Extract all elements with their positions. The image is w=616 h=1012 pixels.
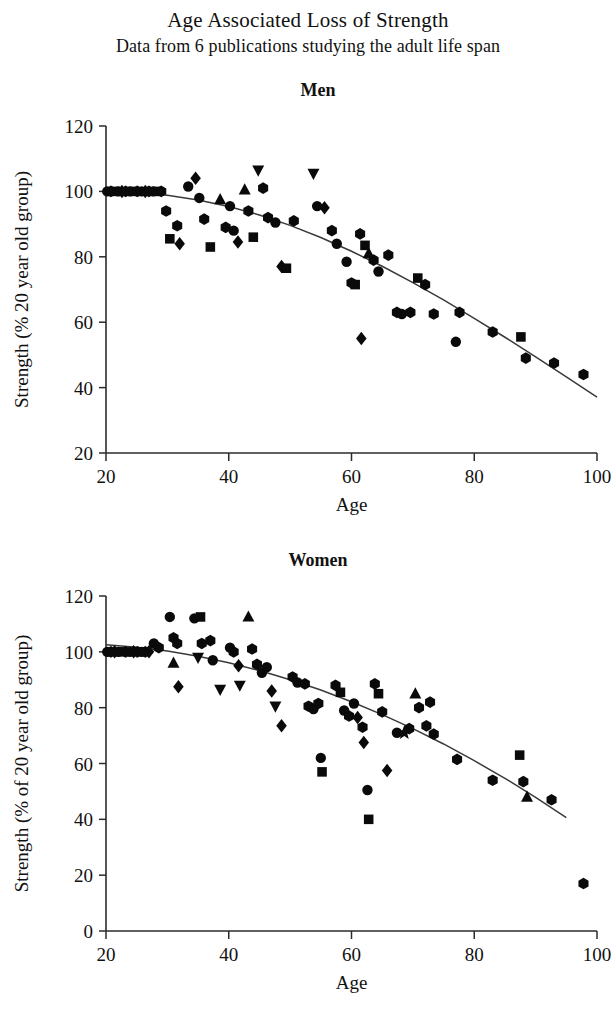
data-point-hexagon — [197, 638, 207, 650]
data-point-hexagon — [578, 369, 588, 381]
data-point-triangle-up — [242, 610, 254, 621]
data-point-square — [364, 815, 374, 825]
x-tick-label: 40 — [219, 466, 238, 487]
data-point-triangle-up — [168, 657, 180, 668]
data-point-circle — [165, 612, 175, 622]
data-point-hexagon — [355, 228, 365, 240]
data-point-hexagon — [518, 776, 528, 788]
data-point-diamond — [359, 736, 370, 750]
data-point-hexagon — [454, 307, 464, 319]
data-point-hexagon — [172, 220, 182, 232]
data-point-circle — [341, 257, 351, 267]
data-point-triangle-up — [214, 193, 226, 204]
data-point-hexagon — [452, 753, 462, 765]
data-point-square — [350, 280, 360, 290]
data-point-hexagon — [421, 720, 431, 732]
data-point-triangle-down — [269, 702, 281, 713]
x-tick-label: 60 — [342, 944, 361, 965]
data-point-square — [249, 232, 259, 242]
plot-women: 02040608010012020406080100AgeStrength (%… — [0, 572, 616, 1004]
x-tick-label: 80 — [465, 466, 484, 487]
data-point-square — [196, 612, 206, 622]
data-point-hexagon — [205, 635, 215, 647]
y-tick-label: 60 — [74, 312, 93, 333]
data-point-triangle-down — [214, 685, 226, 696]
y-tick-label: 20 — [74, 443, 93, 464]
x-tick-label: 80 — [465, 944, 484, 965]
x-tick-label: 60 — [342, 466, 361, 487]
data-point-hexagon — [383, 249, 393, 261]
data-point-diamond — [382, 764, 393, 778]
y-tick-label: 80 — [74, 247, 93, 268]
y-tick-label: 100 — [65, 181, 94, 202]
data-point-hexagon — [425, 696, 435, 708]
y-tick-label: 120 — [65, 116, 94, 137]
y-tick-label: 20 — [74, 865, 93, 886]
plot-men: 2040608010012020406080100AgeStrength (% … — [0, 102, 616, 522]
data-point-hexagon — [547, 794, 557, 806]
data-point-triangle-down — [252, 165, 264, 176]
data-point-hexagon — [358, 721, 368, 733]
data-point-circle — [316, 753, 326, 763]
y-tick-label: 40 — [74, 378, 93, 399]
data-point-diamond — [173, 680, 184, 694]
y-tick-label: 100 — [65, 642, 94, 663]
x-tick-label: 20 — [97, 466, 116, 487]
scatter-plot-women: 02040608010012020406080100AgeStrength (%… — [0, 572, 616, 1004]
y-tick-label: 0 — [84, 921, 94, 942]
data-point-square — [515, 750, 525, 760]
data-point-circle — [208, 655, 218, 665]
data-point-circle — [451, 337, 461, 347]
data-points-group — [102, 165, 589, 380]
data-point-hexagon — [247, 643, 257, 655]
x-tick-label: 20 — [97, 944, 116, 965]
data-point-triangle-down — [234, 681, 246, 692]
data-point-hexagon — [243, 205, 253, 217]
data-point-diamond — [266, 684, 277, 698]
panel-title-women: Women — [0, 548, 616, 572]
data-point-diamond — [233, 659, 244, 673]
data-point-hexagon — [429, 728, 439, 740]
y-axis-title: Strength (% 20 year old group) — [11, 171, 33, 408]
data-point-circle — [183, 181, 193, 191]
data-point-triangle-up — [239, 183, 251, 194]
data-point-circle — [362, 785, 372, 795]
x-axis-title: Age — [336, 494, 368, 515]
y-axis-title: Strength (% of 20 year old group) — [11, 635, 33, 893]
data-point-square — [282, 263, 292, 273]
y-tick-label: 40 — [74, 809, 93, 830]
figure-header: Age Associated Loss of Strength Data fro… — [0, 0, 616, 58]
data-point-hexagon — [414, 702, 424, 714]
data-point-hexagon — [429, 308, 439, 320]
data-point-hexagon — [521, 352, 531, 364]
data-point-triangle-down — [307, 169, 319, 180]
data-point-hexagon — [161, 205, 171, 217]
data-point-hexagon — [488, 774, 498, 786]
figure-title: Age Associated Loss of Strength — [0, 0, 616, 34]
data-point-square — [317, 767, 327, 777]
data-point-square — [374, 689, 384, 699]
data-point-diamond — [356, 332, 367, 346]
data-point-circle — [225, 201, 235, 211]
y-tick-label: 80 — [74, 698, 93, 719]
data-point-circle — [349, 698, 359, 708]
x-tick-label: 40 — [219, 944, 238, 965]
data-point-diamond — [233, 235, 244, 249]
data-point-circle — [332, 239, 342, 249]
panel-women: Women 02040608010012020406080100AgeStren… — [0, 548, 616, 1012]
data-point-diamond — [174, 237, 185, 251]
data-point-hexagon — [258, 182, 268, 194]
x-tick-label: 100 — [583, 466, 612, 487]
data-point-hexagon — [370, 678, 380, 690]
y-tick-label: 120 — [65, 586, 94, 607]
x-axis-title: Age — [336, 972, 368, 993]
data-point-hexagon — [327, 225, 337, 237]
data-point-hexagon — [199, 213, 209, 225]
data-point-triangle-down — [192, 653, 204, 664]
scatter-plot-men: 2040608010012020406080100AgeStrength (% … — [0, 102, 616, 522]
fit-curve — [106, 645, 566, 818]
panel-men: Men 2040608010012020406080100AgeStrength… — [0, 78, 616, 530]
data-point-triangle-up — [521, 791, 533, 802]
figure-root: Age Associated Loss of Strength Data fro… — [0, 0, 616, 1012]
data-point-hexagon — [578, 878, 588, 890]
